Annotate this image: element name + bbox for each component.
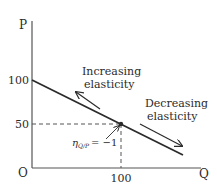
decreasing-elasticity-arrow [140, 124, 182, 146]
unit-elastic-point [119, 122, 123, 126]
increasing-label-1: Increasing [82, 65, 141, 78]
eta-subscript: Q/P [78, 142, 90, 149]
y-tick-100: 100 [8, 74, 29, 87]
decreasing-label-1: Decreasing [145, 97, 208, 110]
increasing-label-2: elasticity [84, 78, 135, 91]
x-axis-label: Q [199, 167, 209, 181]
demand-elasticity-diagram: P Q O 100 50 100 Increasing elasticity D… [0, 0, 217, 196]
eta-value: = −1 [91, 137, 117, 148]
y-axis-label: P [19, 18, 27, 32]
decreasing-label-2: elasticity [147, 110, 198, 123]
x-tick-100: 100 [111, 172, 132, 185]
increasing-elasticity-arrow [76, 92, 100, 109]
y-tick-50: 50 [15, 118, 29, 131]
elasticity-point-label: ηQ/P= −1 [72, 137, 117, 149]
origin-label: O [18, 166, 28, 180]
